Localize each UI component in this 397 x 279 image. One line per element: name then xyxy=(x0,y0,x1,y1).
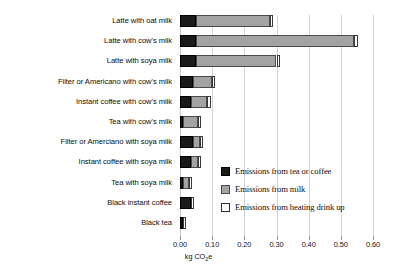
category-label: Filter or Amerciano with soya milk xyxy=(61,136,172,148)
tick-label: 0.40 xyxy=(294,240,324,249)
bar-segment xyxy=(270,15,273,27)
bar-segment xyxy=(180,55,196,67)
bar-segment xyxy=(180,156,191,168)
category-label: Tea with soya milk xyxy=(111,177,172,189)
tick-label: 0.00 xyxy=(165,240,195,249)
bar-segment xyxy=(207,96,210,108)
bar-segment xyxy=(183,116,198,128)
bar-segment xyxy=(277,55,280,67)
legend-label: Emissions from heating drink up xyxy=(235,202,345,212)
bar-row xyxy=(180,136,373,148)
bar-segment xyxy=(196,35,354,47)
category-label: Instant coffee with soya milk xyxy=(79,156,172,168)
bar-segment xyxy=(180,96,191,108)
x-axis-title-text: kg CO xyxy=(185,252,205,261)
bar-segment xyxy=(180,76,193,88)
bar-segment xyxy=(189,177,192,189)
category-label: Instant coffee with cow's milk xyxy=(76,96,172,108)
legend-swatch-icon xyxy=(221,203,230,212)
bar-segment xyxy=(212,76,215,88)
legend-swatch-icon xyxy=(221,167,230,176)
category-label: Black tea xyxy=(141,217,172,229)
bar-segment xyxy=(193,136,200,148)
bar-row xyxy=(180,116,373,128)
bar-row xyxy=(180,76,373,88)
bar-segment xyxy=(198,156,201,168)
bar-segment xyxy=(180,197,191,209)
bar-segment xyxy=(183,217,186,229)
legend-swatch-icon xyxy=(221,185,230,194)
category-axis-labels: Latte with oat milkLatte with cow's milk… xyxy=(0,0,176,236)
legend-label: Emissions from tea or coffee xyxy=(235,166,331,176)
bar-segment xyxy=(180,35,196,47)
bar-row xyxy=(180,55,373,67)
tick-label: 0.30 xyxy=(262,240,292,249)
bar-segment xyxy=(196,55,276,67)
gridline xyxy=(373,15,374,236)
bar-segment xyxy=(191,96,207,108)
x-axis-title-suffix: e xyxy=(208,252,212,261)
category-label: Filter or Americano with cow's milk xyxy=(58,76,172,88)
tick-label: 0.50 xyxy=(326,240,356,249)
bar-segment xyxy=(196,15,270,27)
category-label: Tea with cow's milk xyxy=(109,116,172,128)
bar-segment xyxy=(191,197,194,209)
bar-segment xyxy=(193,76,212,88)
bar-row xyxy=(180,217,373,229)
x-axis-title: kg CO2e xyxy=(0,252,397,262)
tick-label: 0.60 xyxy=(358,240,388,249)
stacked-bar-chart: Latte with oat milkLatte with cow's milk… xyxy=(0,0,397,279)
bar-row xyxy=(180,96,373,108)
bar-segment xyxy=(180,15,196,27)
bar-segment xyxy=(354,35,357,47)
category-label: Latte with oat milk xyxy=(112,15,172,27)
bar-segment xyxy=(180,136,193,148)
bar-row xyxy=(180,15,373,27)
bar-segment xyxy=(200,136,203,148)
tick-label: 0.10 xyxy=(197,240,227,249)
bar-segment xyxy=(198,116,201,128)
tick-label: 0.20 xyxy=(229,240,259,249)
category-label: Black instant coffee xyxy=(107,197,172,209)
category-label: Latte with cow's milk xyxy=(104,35,172,47)
bar-row xyxy=(180,35,373,47)
category-label: Latte with soya milk xyxy=(107,55,172,67)
legend-label: Emissions from milk xyxy=(235,184,305,194)
